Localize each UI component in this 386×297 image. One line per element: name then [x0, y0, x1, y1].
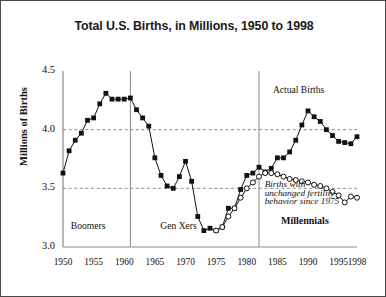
- series-actual-births: [61, 91, 360, 233]
- label-boomers: Boomers: [71, 220, 106, 231]
- x-tick-1950: 1950: [46, 257, 80, 267]
- label-actual-births: Actual Births: [273, 84, 324, 95]
- chart-frame: Total U.S. Births, in Millions, 1950 to …: [0, 0, 386, 297]
- x-tick-1955: 1955: [77, 257, 111, 267]
- x-tick-1980: 1980: [230, 257, 264, 267]
- x-tick-1990: 1990: [291, 257, 325, 267]
- x-tick-1985: 1985: [260, 257, 294, 267]
- x-tick-1998: 1998: [340, 257, 374, 267]
- label-millennials: Millennials: [281, 215, 329, 226]
- y-tick-4.0: 4.0: [29, 123, 55, 134]
- x-tick-1970: 1970: [169, 257, 203, 267]
- y-tick-3.0: 3.0: [29, 240, 55, 251]
- x-tick-1975: 1975: [199, 257, 233, 267]
- y-tick-3.5: 3.5: [29, 181, 55, 192]
- gridlines: [63, 130, 357, 189]
- label-gen-xers: Gen Xers: [160, 220, 197, 231]
- annotation-unchanged-line3: behavior since 1975: [265, 196, 340, 207]
- x-tick-1965: 1965: [138, 257, 172, 267]
- plot-area: [1, 1, 386, 297]
- y-tick-4.5: 4.5: [29, 64, 55, 75]
- x-tick-1960: 1960: [107, 257, 141, 267]
